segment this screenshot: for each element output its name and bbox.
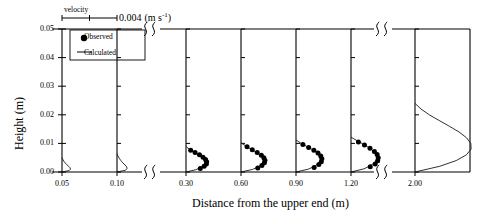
observed-point-1.20-7 [362,143,367,148]
calculated-curve-1.20 [351,137,377,172]
calculated-curve-0.10 [117,154,127,172]
observed-point-0.30-6 [197,152,202,157]
calculated-curve-2.00 [415,103,471,172]
observed-point-0.60-6 [255,150,260,155]
axis-break-1-0-1 [384,165,387,179]
observed-point-1.20-0 [368,164,373,169]
y-tick-label-0.03: 0.03 [30,81,54,90]
axis-break-0-0-0 [144,165,147,179]
scale-bar-value-group: 0.004(m s-1) [119,11,171,23]
axis-break-1-1-0 [376,22,379,36]
calculated-curve-0.05 [62,158,71,172]
observed-point-0.60-0 [255,166,260,171]
scale-bar-unit-suffix: ) [168,12,171,23]
observed-point-0.90-6 [311,148,316,153]
y-axis-title: Height (m) [12,97,27,150]
scale-bar-label: velocity [64,5,88,14]
legend-label-calculated: Calculated [84,48,116,57]
observed-point-1.20-6 [367,146,372,151]
x-tick-label-2.00: 2.00 [395,179,435,188]
axis-break-0-0-1 [152,165,155,179]
observed-point-0.60-5 [259,153,264,158]
observed-point-1.20-5 [372,149,377,154]
observed-point-0.60-8 [245,144,250,149]
observed-point-0.90-7 [306,145,311,150]
x-tick-label-0.60: 0.60 [221,179,261,188]
calculated-curve-0.90 [296,140,320,172]
axis-break-1-1-1 [384,22,387,36]
legend-label-observed: Observed [84,32,113,41]
y-tick-label-0.00: 0.00 [30,167,54,176]
y-tick-label-0.02: 0.02 [30,110,54,119]
x-tick-label-0.30: 0.30 [166,179,206,188]
y-tick-label-0.01: 0.01 [30,138,54,147]
axis-break-1-0-0 [376,165,379,179]
scale-bar-unit-prefix: (m s [145,12,163,23]
x-tick-label-1.20: 1.20 [331,179,371,188]
scale-bar-value: 0.004 [119,12,142,23]
x-tick-label-0.10: 0.10 [97,179,137,188]
x-axis-title: Distance from the upper end (m) [192,196,349,211]
observed-point-0.30-7 [193,150,198,155]
y-tick-label-0.05: 0.05 [30,24,54,33]
x-tick-label-0.90: 0.90 [276,179,316,188]
x-tick-label-0.05: 0.05 [42,179,82,188]
observed-point-0.90-8 [300,142,305,147]
observed-point-0.30-8 [188,148,193,153]
observed-point-1.20-8 [356,139,361,144]
observed-point-0.90-0 [312,165,317,170]
y-tick-label-0.04: 0.04 [30,53,54,62]
figure-container: Height (m) Distance from the upper end (… [0,0,490,219]
axis-break-0-1-1 [152,22,155,36]
axis-break-0-1-0 [144,22,147,36]
observed-point-0.60-7 [250,147,255,152]
observed-point-0.90-5 [316,151,321,156]
